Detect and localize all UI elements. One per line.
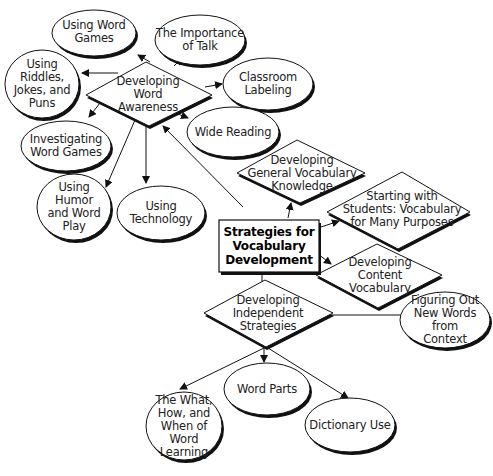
branch-content-vocabulary: Developing Content Vocabulary	[330, 252, 430, 298]
node-what-how-when: The What, How, and When of Word Learning	[146, 396, 222, 456]
node-figuring-out-context: Figuring Out New Words from Context	[400, 296, 490, 344]
node-using-technology: Using Technology	[117, 190, 205, 236]
branch-word-awareness: Developing Word Awareness	[100, 70, 196, 118]
node-word-parts: Word Parts	[224, 367, 310, 411]
branch-starting-with-students: Starting with Students: Vocabulary for M…	[340, 186, 464, 232]
node-humor-word-play: Using Humor and Word Play	[37, 178, 111, 236]
node-riddles-jokes-puns: Using Riddles, Jokes, and Puns	[5, 54, 79, 114]
node-dictionary-use: Dictionary Use	[305, 403, 395, 447]
central-node-strategies: Strategies for Vocabulary Development	[219, 220, 319, 272]
node-using-word-games: Using Word Games	[52, 12, 136, 52]
node-wide-reading: Wide Reading	[187, 110, 279, 154]
node-classroom-labeling: Classroom Labeling	[223, 62, 313, 106]
branch-independent-strategies: Developing Independent Strategies	[218, 290, 318, 336]
node-investigating-word-games: Investigating Word Games	[21, 124, 111, 168]
node-importance-of-talk: The Importance of Talk	[155, 18, 245, 62]
